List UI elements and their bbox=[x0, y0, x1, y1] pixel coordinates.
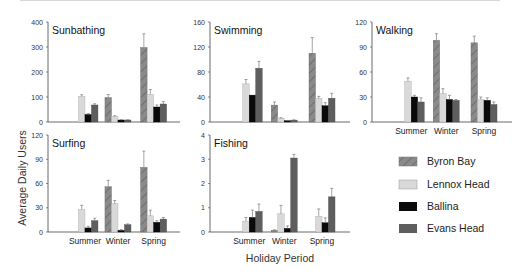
bar-evans-head bbox=[453, 100, 460, 122]
bar-ballina bbox=[249, 95, 256, 122]
panel-title: Fishing bbox=[214, 137, 248, 149]
bar-evans-head bbox=[491, 105, 498, 123]
x-category-label: Spring bbox=[310, 236, 335, 246]
y-tick-label: 3 bbox=[201, 156, 205, 163]
x-axis-label: Holiday Period bbox=[246, 252, 314, 264]
bar-lennox-head bbox=[278, 118, 285, 122]
x-category-label: Summer bbox=[395, 126, 427, 136]
y-tick-label: 30 bbox=[359, 94, 367, 101]
bar-byron-bay bbox=[141, 48, 148, 123]
panel-sunbathing: 0100200300400Sunbathing bbox=[31, 19, 180, 126]
bar-ballina bbox=[118, 230, 125, 232]
x-category-label: Winter bbox=[272, 236, 297, 246]
bar-ballina bbox=[411, 97, 418, 122]
bar-lennox-head bbox=[278, 214, 285, 232]
y-axis-label: Average Daily Users bbox=[16, 130, 28, 226]
panel-fishing: 01234FishingSummerWinterSpring bbox=[201, 132, 350, 247]
bar-evans-head bbox=[291, 120, 298, 122]
y-tick-label: 0 bbox=[39, 229, 43, 236]
bar-evans-head bbox=[329, 197, 336, 232]
bar-lennox-head bbox=[478, 100, 485, 123]
y-tick-label: 0 bbox=[201, 119, 205, 126]
y-tick-label: 1 bbox=[201, 204, 205, 211]
bar-byron-bay bbox=[141, 167, 148, 232]
legend-label-ballina: Ballina bbox=[427, 200, 459, 212]
x-category-label: Spring bbox=[472, 126, 497, 136]
x-category-label: Winter bbox=[106, 236, 131, 246]
bar-evans-head bbox=[256, 211, 263, 232]
bar-ballina bbox=[322, 223, 329, 232]
x-category-label: Summer bbox=[233, 236, 265, 246]
y-tick-label: 60 bbox=[359, 69, 367, 76]
bar-lennox-head bbox=[111, 204, 118, 232]
bar-evans-head bbox=[91, 221, 98, 232]
bar-lennox-head bbox=[243, 84, 250, 122]
panel-walking: 0306090120WalkingSummerWinterSpring bbox=[355, 19, 512, 137]
figure-canvas: Average Daily Users Holiday Period 01002… bbox=[0, 0, 531, 278]
bar-evans-head bbox=[256, 68, 263, 122]
bar-byron-bay bbox=[433, 40, 440, 122]
legend-label-lennox-head: Lennox Head bbox=[427, 178, 490, 190]
bar-lennox-head bbox=[440, 94, 447, 122]
y-tick-label: 400 bbox=[31, 19, 43, 26]
bar-evans-head bbox=[160, 219, 167, 232]
x-category-label: Summer bbox=[69, 236, 101, 246]
bar-byron-bay bbox=[105, 98, 112, 123]
y-tick-label: 0 bbox=[39, 119, 43, 126]
y-tick-label: 0 bbox=[363, 119, 367, 126]
bar-ballina bbox=[284, 228, 291, 232]
panel-surfing: 0306090120SurfingSummerWinterSpring bbox=[31, 132, 180, 247]
y-tick-label: 80 bbox=[197, 69, 205, 76]
y-tick-label: 120 bbox=[355, 19, 367, 26]
panel-title: Surfing bbox=[52, 137, 85, 149]
panel-title: Swimming bbox=[214, 24, 263, 36]
panel-swimming: 04080120160Swimming bbox=[193, 19, 350, 126]
y-tick-label: 200 bbox=[31, 69, 43, 76]
y-tick-label: 300 bbox=[31, 44, 43, 51]
legend-label-evans-head: Evans Head bbox=[427, 222, 484, 234]
bar-ballina bbox=[85, 228, 92, 232]
y-tick-label: 160 bbox=[193, 19, 205, 26]
bar-ballina bbox=[446, 100, 453, 123]
legend-swatch-lennox-head bbox=[399, 180, 417, 189]
y-tick-label: 120 bbox=[31, 132, 43, 139]
bar-byron-bay bbox=[271, 230, 278, 232]
bar-ballina bbox=[118, 120, 125, 122]
y-tick-label: 4 bbox=[201, 132, 205, 139]
bar-lennox-head bbox=[405, 81, 412, 122]
bar-byron-bay bbox=[105, 187, 112, 232]
y-tick-label: 100 bbox=[31, 94, 43, 101]
bar-evans-head bbox=[418, 102, 425, 122]
bar-lennox-head bbox=[111, 117, 118, 123]
bar-evans-head bbox=[124, 225, 130, 232]
y-tick-label: 40 bbox=[197, 94, 205, 101]
legend-swatch-evans-head bbox=[399, 224, 417, 233]
bar-byron-bay bbox=[471, 43, 478, 122]
legend-swatch-ballina bbox=[399, 202, 417, 211]
bar-ballina bbox=[284, 121, 291, 122]
legend-swatch-byron-bay bbox=[399, 157, 417, 166]
legend-item-ballina: Ballina bbox=[399, 200, 459, 212]
x-category-label: Spring bbox=[141, 236, 166, 246]
legend-label-byron-bay: Byron Bay bbox=[427, 155, 476, 167]
y-tick-label: 90 bbox=[359, 44, 367, 51]
y-tick-label: 2 bbox=[201, 180, 205, 187]
bar-ballina bbox=[85, 115, 92, 123]
legend-item-evans-head: Evans Head bbox=[399, 222, 484, 234]
bar-ballina bbox=[484, 100, 491, 122]
bar-byron-bay bbox=[309, 53, 316, 122]
legend: Byron Bay Lennox Head Ballina Evans Head bbox=[399, 155, 490, 234]
bar-lennox-head bbox=[78, 209, 85, 232]
bar-lennox-head bbox=[316, 98, 323, 122]
y-tick-label: 30 bbox=[35, 204, 43, 211]
y-tick-label: 90 bbox=[35, 156, 43, 163]
y-tick-label: 60 bbox=[35, 180, 43, 187]
bar-ballina bbox=[154, 222, 161, 232]
bar-evans-head bbox=[91, 105, 98, 122]
bar-lennox-head bbox=[316, 216, 323, 232]
bar-lennox-head bbox=[78, 96, 85, 122]
bar-ballina bbox=[154, 107, 161, 122]
y-tick-label: 0 bbox=[201, 229, 205, 236]
bar-evans-head bbox=[160, 104, 167, 122]
bar-byron-bay bbox=[271, 105, 278, 122]
